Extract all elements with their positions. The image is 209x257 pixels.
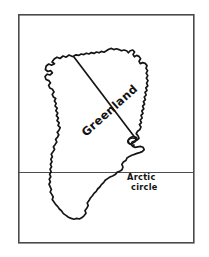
greenland-map-figure: Greenland Arctic circle — [0, 0, 209, 257]
map-canvas: Greenland Arctic circle — [0, 0, 209, 257]
map-border-rect — [19, 15, 194, 243]
label-arctic-circle-line1: Arctic — [127, 172, 156, 182]
label-arctic-circle-line2: circle — [131, 182, 158, 192]
